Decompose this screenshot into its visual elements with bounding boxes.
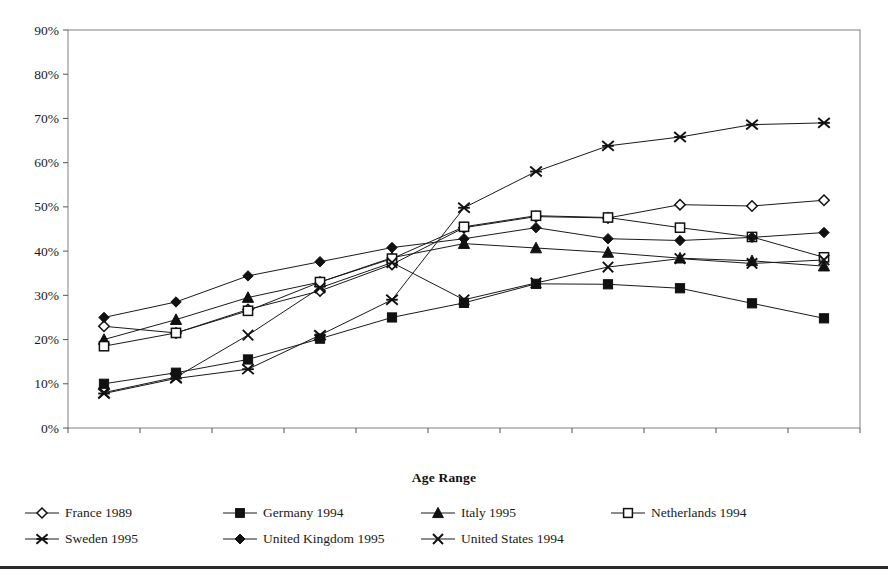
legend-item-united-kingdom-1995[interactable]: United Kingdom 1995 (222, 526, 420, 552)
legend-item-label: Sweden 1995 (65, 531, 138, 547)
open-diamond-icon (24, 504, 60, 522)
data-point-open-diamond (819, 195, 829, 205)
data-point-filled-square (387, 313, 396, 322)
legend-item-france-1989[interactable]: France 1989 (24, 500, 222, 526)
data-point-filled-diamond (99, 312, 109, 322)
data-point-filled-diamond (171, 297, 181, 307)
data-point-filled-square (819, 314, 828, 323)
line-chart: 0%10%20%30%40%50%60%70%80%90% 18-2219-23… (0, 0, 888, 440)
x-axis-title: Age Range (0, 470, 888, 486)
legend-item-germany-1994[interactable]: Germany 1994 (222, 500, 420, 526)
y-tick-label: 60% (34, 155, 59, 170)
data-point-filled-diamond (315, 257, 325, 267)
y-tick-label: 30% (34, 288, 59, 303)
data-point-filled-square (99, 379, 108, 388)
data-point-filled-square (675, 284, 684, 293)
data-point-star (386, 295, 398, 305)
data-point-filled-diamond (603, 234, 613, 244)
legend-item-label: Italy 1995 (461, 505, 516, 521)
legend-item-netherlands-1994[interactable]: Netherlands 1994 (610, 500, 830, 526)
chart-legend: France 1989Germany 1994Italy 1995Netherl… (24, 500, 874, 552)
data-point-open-diamond (37, 508, 47, 518)
data-point-star (674, 132, 686, 142)
y-tick-label: 0% (41, 421, 59, 436)
data-point-star (746, 120, 758, 130)
data-point-cross-x (243, 330, 253, 340)
chart-plot-area: 0%10%20%30%40%50%60%70%80%90% 18-2219-23… (0, 0, 888, 440)
legend-item-label: United Kingdom 1995 (263, 531, 385, 547)
data-point-star (458, 203, 470, 213)
data-point-star (530, 167, 542, 177)
series-netherlands-1994 (99, 211, 828, 351)
y-tick-label: 80% (34, 67, 59, 82)
data-point-star (36, 534, 47, 544)
data-point-star (818, 118, 830, 128)
data-point-filled-diamond (531, 222, 541, 232)
legend-item-label: Germany 1994 (263, 505, 344, 521)
y-tick-label: 40% (34, 244, 59, 259)
series-france-1989 (99, 195, 829, 338)
filled-square-icon (222, 504, 258, 522)
data-point-open-square (624, 509, 633, 518)
filled-triangle-icon (420, 504, 456, 522)
open-square-icon (610, 504, 646, 522)
data-point-open-square (603, 213, 612, 222)
data-point-filled-square (243, 355, 252, 364)
data-point-star (242, 364, 254, 374)
legend-item-label: Netherlands 1994 (651, 505, 747, 521)
data-point-filled-square (603, 280, 612, 289)
data-point-filled-diamond (459, 234, 469, 244)
legend-item-united-states-1994[interactable]: United States 1994 (420, 526, 610, 552)
y-tick-label: 20% (34, 332, 59, 347)
data-point-open-diamond (747, 201, 757, 211)
legend-item-sweden-1995[interactable]: Sweden 1995 (24, 526, 222, 552)
data-point-open-square (171, 328, 180, 337)
data-point-star (602, 141, 614, 151)
legend-item-italy-1995[interactable]: Italy 1995 (420, 500, 610, 526)
filled-diamond-icon (222, 530, 258, 548)
data-point-filled-diamond (235, 534, 245, 544)
chart-page: 0%10%20%30%40%50%60%70%80%90% 18-2219-23… (0, 0, 888, 584)
cross-x-icon (420, 530, 456, 548)
data-point-open-diamond (675, 199, 685, 209)
star-icon (24, 530, 60, 548)
legend-item-label: United States 1994 (461, 531, 564, 547)
x-axis-ticks (68, 428, 860, 433)
y-axis-ticks: 0%10%20%30%40%50%60%70%80%90% (34, 23, 68, 436)
legend-item-label: France 1989 (65, 505, 132, 521)
data-point-open-square (243, 306, 252, 315)
y-tick-label: 70% (34, 111, 59, 126)
data-point-filled-diamond (819, 227, 829, 237)
data-point-filled-triangle (170, 314, 181, 325)
y-tick-label: 10% (34, 376, 59, 391)
data-point-filled-diamond (675, 235, 685, 245)
series-layer (98, 118, 830, 399)
y-tick-label: 50% (34, 199, 59, 214)
data-point-open-square (99, 342, 108, 351)
data-point-open-square (459, 222, 468, 231)
data-point-filled-diamond (243, 271, 253, 281)
series-sweden-1995 (98, 118, 830, 399)
data-point-filled-square (747, 299, 756, 308)
data-point-filled-diamond (387, 242, 397, 252)
data-point-open-square (675, 223, 684, 232)
series-germany-1994 (99, 279, 828, 388)
bottom-divider (0, 566, 888, 569)
series-united-states-1994 (99, 253, 829, 397)
data-point-open-square (531, 211, 540, 220)
series-italy-1995 (98, 238, 829, 345)
y-tick-label: 90% (34, 23, 59, 38)
data-point-filled-square (236, 509, 245, 518)
